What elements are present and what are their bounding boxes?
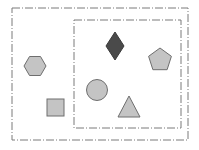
diagram-canvas [0,0,199,150]
square-shape [47,99,64,116]
triangle-shape [118,96,140,117]
pentagon-shape [149,48,172,70]
diamond-shape [106,32,124,60]
circle-shape [87,80,108,101]
hexagon-shape [24,57,46,76]
